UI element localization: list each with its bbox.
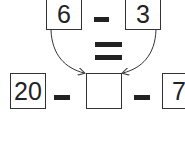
equals-sign-bottom-bar [95,55,122,60]
bottom-right-number-box: 7 [162,73,185,109]
top-right-number: 3 [136,2,150,27]
top-right-number-box: 3 [125,0,161,30]
equals-sign-top-bar [95,42,122,47]
bottom-left-number-box: 20 [10,73,46,109]
bottom-left-number: 20 [14,79,42,104]
top-left-number-box: 6 [46,0,82,30]
bottom-minus-sign-2 [134,95,150,100]
top-minus-sign [94,17,109,22]
right-arrow [123,30,156,73]
answer-box[interactable] [86,73,122,109]
left-arrow [51,30,84,73]
bottom-minus-sign-1 [54,95,70,100]
bottom-right-number: 7 [172,79,185,104]
top-left-number: 6 [57,2,71,27]
